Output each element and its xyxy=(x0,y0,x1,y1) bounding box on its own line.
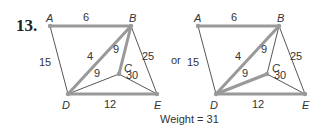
vertex-A xyxy=(196,24,200,28)
vertex-label-E: E xyxy=(154,99,162,111)
vertex-D xyxy=(66,92,70,96)
vertex-A xyxy=(48,24,52,28)
edge-weight-BD: 4 xyxy=(235,50,241,62)
edge-weight-AD: 15 xyxy=(39,56,51,68)
diagram-stage: 13. 615492593012ABCDE615492593012ABCDE o… xyxy=(0,0,326,135)
edge-weight-AB: 6 xyxy=(231,11,237,23)
edge-weight-CD: 9 xyxy=(242,67,248,79)
edge-AD xyxy=(198,26,216,94)
vertex-D xyxy=(214,92,218,96)
vertex-label-D: D xyxy=(62,99,70,111)
vertex-label-B: B xyxy=(129,12,136,24)
graph-left: 615492593012ABCDE xyxy=(39,11,162,111)
vertex-label-E: E xyxy=(302,99,310,111)
vertex-label-A: A xyxy=(45,12,53,24)
vertex-label-C: C xyxy=(124,62,132,74)
edge-weight-BC: 9 xyxy=(113,43,119,55)
vertex-label-B: B xyxy=(277,12,284,24)
vertex-B xyxy=(277,24,281,28)
edge-weight-DE: 12 xyxy=(104,98,116,110)
graph-right: 615492593012ABCDE xyxy=(187,11,310,111)
vertex-C xyxy=(117,72,121,76)
total-weight-label: Weight = 31 xyxy=(160,113,219,125)
edge-weight-BC: 9 xyxy=(261,43,267,55)
edge-weight-AD: 15 xyxy=(187,56,199,68)
vertex-B xyxy=(129,24,133,28)
edge-weight-DE: 12 xyxy=(252,98,264,110)
vertex-C xyxy=(265,72,269,76)
edge-BD xyxy=(216,26,279,94)
edge-weight-BE: 25 xyxy=(290,50,302,62)
edge-weight-BD: 4 xyxy=(87,50,93,62)
vertex-label-C: C xyxy=(272,62,280,74)
or-connector: or xyxy=(171,54,181,66)
edge-weight-CD: 9 xyxy=(94,67,100,79)
edge-weight-AB: 6 xyxy=(83,11,89,23)
edge-AD xyxy=(50,26,68,94)
edge-weight-BE: 25 xyxy=(142,50,154,62)
vertex-E xyxy=(303,92,307,96)
vertex-E xyxy=(155,92,159,96)
vertex-label-A: A xyxy=(193,12,201,24)
vertex-label-D: D xyxy=(210,99,218,111)
